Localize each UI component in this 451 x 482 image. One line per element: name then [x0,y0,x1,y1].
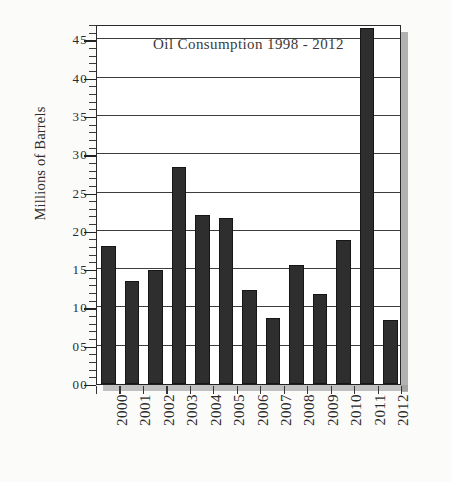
x-axis-tick-label: 2011 [372,394,389,464]
x-axis-tick [260,386,261,394]
y-axis-tick-label: 15 [54,262,88,278]
bar [336,240,351,384]
y-axis-minor-tick [89,186,96,187]
y-axis-minor-tick [89,370,96,371]
bar [219,218,234,384]
y-axis-minor-tick [89,94,96,95]
x-axis-tick [190,386,191,394]
bar [360,28,375,384]
bar [125,281,140,384]
y-axis-minor-tick [89,316,96,317]
x-axis-tick [213,386,214,394]
y-axis-tick-label: 40 [54,71,88,87]
x-axis-tick-label: 2005 [231,394,248,464]
x-axis-tick [401,386,402,394]
x-axis-tick-labels: 2000200120022003200420052006200720082009… [96,396,401,476]
y-axis-tick-labels: 00051015202530354045 [54,25,88,385]
x-axis-tick [284,386,285,394]
x-axis-tick-label: 2002 [161,394,178,464]
y-axis-minor-tick [89,324,96,325]
y-axis-tick-label: 00 [54,377,88,393]
bar [101,246,116,384]
y-axis-minor-tick [89,33,96,34]
chart-title: Oil Consumption 1998 - 2012 [96,36,401,53]
y-axis-minor-tick [89,278,96,279]
y-axis-minor-tick [89,293,96,294]
bar [266,318,281,384]
x-axis-tick-label: 2012 [395,394,412,464]
y-axis-major-tick [84,155,96,156]
x-axis-tick-label: 2008 [301,394,318,464]
x-axis-tick [143,386,144,394]
y-axis-minor-tick [89,140,96,141]
bar-series [97,26,400,384]
x-axis-tick [307,386,308,394]
y-axis-tick-label: 20 [54,224,88,240]
y-axis-minor-tick [89,102,96,103]
plot-area [96,25,401,385]
y-axis-major-tick [84,232,96,233]
x-axis-tick [119,386,120,394]
x-axis-tick-label: 2004 [208,394,225,464]
y-axis-minor-tick [89,178,96,179]
y-axis-minor-tick [89,224,96,225]
y-axis-minor-tick [89,171,96,172]
y-axis-title: Millions of Barrels [32,64,49,264]
y-axis-minor-tick [89,255,96,256]
y-axis-minor-tick [89,239,96,240]
y-axis-major-tick [84,117,96,118]
y-axis-minor-tick [89,377,96,378]
x-axis-tick [166,386,167,394]
x-axis-tick [331,386,332,394]
bar [289,265,304,384]
y-axis-minor-tick [89,48,96,49]
y-axis-minor-tick [89,125,96,126]
y-axis-minor-tick [89,109,96,110]
y-axis-minor-tick [89,362,96,363]
x-axis-tick-label: 2006 [255,394,272,464]
y-axis-major-tick [84,308,96,309]
y-axis-minor-tick [89,25,96,26]
bar [172,167,187,384]
y-axis-minor-tick [89,301,96,302]
x-axis-tick-label: 2010 [348,394,365,464]
y-axis-minor-tick [89,285,96,286]
y-axis-minor-tick [89,354,96,355]
y-axis-minor-tick [89,331,96,332]
x-axis-tick [354,386,355,394]
y-axis-major-tick [84,347,96,348]
chart-canvas: Millions of Barrels 00051015202530354045… [0,0,451,482]
y-axis-minor-tick [89,339,96,340]
y-axis-major-tick [84,40,96,41]
x-axis-tick-label: 2000 [114,394,131,464]
x-axis-tick [237,386,238,394]
y-axis-tick-label: 35 [54,109,88,125]
y-axis-major-tick [84,270,96,271]
y-axis-tick-label: 10 [54,300,88,316]
bar [242,290,257,384]
x-axis-tick [96,386,97,394]
x-axis-tick-label: 2007 [278,394,295,464]
y-axis-tick-label: 25 [54,186,88,202]
y-axis-minor-tick [89,148,96,149]
bar [313,294,328,384]
y-axis-minor-tick [89,201,96,202]
y-axis-major-tick [84,385,96,386]
x-axis-tick [378,386,379,394]
y-axis-minor-tick [89,86,96,87]
y-axis-minor-tick [89,163,96,164]
bar [148,270,163,384]
x-axis-tick-label: 2003 [184,394,201,464]
y-axis-minor-tick [89,262,96,263]
y-axis-minor-tick [89,71,96,72]
y-axis-minor-tick [89,132,96,133]
y-axis-tick-label: 30 [54,147,88,163]
y-axis-minor-tick [89,247,96,248]
y-axis-tick-label: 05 [54,339,88,355]
x-axis-tick-label: 2001 [137,394,154,464]
y-axis-minor-tick [89,56,96,57]
y-axis-minor-tick [89,209,96,210]
y-axis-minor-tick [89,216,96,217]
bar [383,320,398,384]
x-axis-tick-label: 2009 [325,394,342,464]
